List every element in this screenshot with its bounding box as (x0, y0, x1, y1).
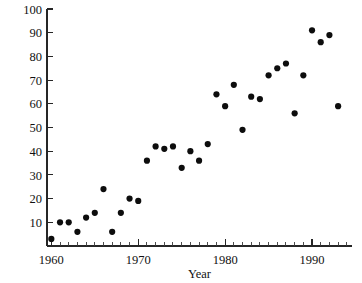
data-point (48, 236, 54, 242)
y-axis-tick-label: 90 (30, 26, 43, 40)
data-point (153, 143, 159, 149)
scatter-plot-figure: 102030405060708090100 1960197019801990 Y… (0, 0, 362, 283)
data-point (283, 60, 289, 66)
data-point (135, 198, 141, 204)
data-point (196, 158, 202, 164)
data-point (66, 219, 72, 225)
data-point (335, 103, 341, 109)
y-axis-tick-label: 60 (30, 97, 43, 111)
plot-canvas: 102030405060708090100 1960197019801990 Y… (0, 0, 362, 283)
data-point (161, 146, 167, 152)
data-point (274, 65, 280, 71)
data-point (205, 141, 211, 147)
data-point (231, 82, 237, 88)
x-axis: 1960197019801990 (39, 239, 352, 268)
data-point (83, 214, 89, 220)
y-axis-tick-label: 40 (30, 145, 43, 159)
data-point (170, 143, 176, 149)
data-point (326, 32, 332, 38)
data-points-layer (48, 27, 341, 242)
data-point (187, 148, 193, 154)
data-point (222, 103, 228, 109)
data-point (74, 229, 80, 235)
data-point (57, 219, 63, 225)
x-axis-tick-label: 1960 (39, 253, 64, 267)
data-point (92, 210, 98, 216)
data-point (265, 72, 271, 78)
data-point (179, 165, 185, 171)
data-point (144, 158, 150, 164)
data-point (118, 210, 124, 216)
data-point (292, 110, 298, 116)
data-point (109, 229, 115, 235)
data-point (213, 91, 219, 97)
data-point (318, 39, 324, 45)
y-axis-tick-label: 80 (30, 50, 43, 64)
data-point (248, 94, 254, 100)
y-axis: 102030405060708090100 (23, 3, 53, 246)
data-point (257, 96, 263, 102)
y-axis-tick-label: 100 (23, 3, 42, 17)
x-axis-tick-label: 1980 (213, 253, 238, 267)
y-axis-tick-label: 10 (30, 216, 43, 230)
y-axis-tick-label: 50 (30, 121, 43, 135)
data-point (239, 127, 245, 133)
y-axis-tick-label: 70 (30, 74, 43, 88)
data-point (300, 72, 306, 78)
y-axis-tick-label: 20 (30, 192, 43, 206)
data-point (309, 27, 315, 33)
y-axis-tick-label: 30 (30, 169, 43, 183)
x-axis-tick-label: 1990 (300, 253, 325, 267)
data-point (100, 186, 106, 192)
x-axis-title: Year (188, 267, 212, 281)
x-axis-tick-label: 1970 (126, 253, 151, 267)
data-point (126, 196, 132, 202)
